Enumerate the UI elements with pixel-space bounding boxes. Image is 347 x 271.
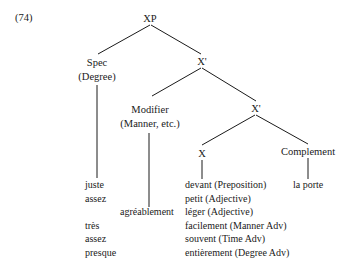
node-xp: XP <box>143 13 156 25</box>
spec-word-list: juste assez très assez presque <box>85 178 116 260</box>
spec-word: assez <box>85 192 116 206</box>
complement-word: la porte <box>293 178 323 192</box>
head-word: petit (Adjective) <box>185 192 289 206</box>
branch-xbar-xbar <box>202 68 256 101</box>
spec-word: presque <box>85 246 116 260</box>
tree-branches <box>0 0 347 271</box>
branch-xbar-modifier <box>152 68 201 96</box>
head-word: léger (Adjective) <box>185 205 289 219</box>
node-spec: Spec <box>87 57 107 69</box>
head-word: devant (Preposition) <box>185 178 289 192</box>
modifier-word: agréablement <box>120 205 174 219</box>
spec-word: assez <box>85 232 116 246</box>
node-spec-sublabel: (Degree) <box>78 71 115 83</box>
node-head: X <box>198 148 206 160</box>
head-word-list: devant (Preposition) petit (Adjective) l… <box>185 178 289 260</box>
complement-word-list: la porte <box>293 178 323 192</box>
head-word: facilement (Manner Adv) <box>185 219 289 233</box>
spec-word <box>85 205 116 219</box>
node-modifier: Modifier <box>131 104 168 116</box>
branch-xp-spec <box>98 25 150 54</box>
node-complement: Complement <box>281 146 335 158</box>
branch-xp-xbar <box>151 25 201 54</box>
node-modifier-sublabel: (Manner, etc.) <box>120 118 179 130</box>
node-xbar-upper: X' <box>197 56 206 68</box>
modifier-word-list: agréablement <box>120 205 174 219</box>
branch-xbar-complement <box>256 115 308 144</box>
spec-word: très <box>85 219 116 233</box>
head-word: souvent (Time Adv) <box>185 232 289 246</box>
branch-xbar-head <box>202 115 255 145</box>
example-number: (74) <box>15 12 33 24</box>
spec-word: juste <box>85 178 116 192</box>
head-word: entièrement (Degree Adv) <box>185 246 289 260</box>
node-xbar-lower: X' <box>251 103 260 115</box>
